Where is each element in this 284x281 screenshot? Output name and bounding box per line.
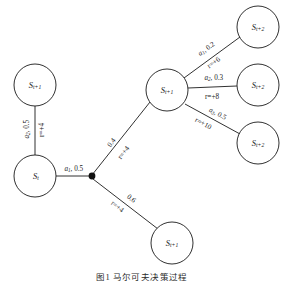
edge-label-prob-0-4: 0.4 xyxy=(106,136,118,148)
figure-root: St+1 St St+1 St+1 St+2 St+2 St+2 xyxy=(0,0,284,281)
edge-decision-dot-to-s_t1_bot xyxy=(93,179,158,229)
edge-label-reward-r-plus4-c: r=+4 xyxy=(109,199,125,214)
edge-label-action-a2-prob-0-3: a2, 0.3 xyxy=(188,74,235,83)
mdp-diagram: St+1 St St+1 St+1 St+2 St+2 St+2 xyxy=(0,0,284,281)
edge-s_t1_mid-to-s_t2_mid xyxy=(188,86,237,88)
decision-dot[interactable] xyxy=(89,173,96,180)
edge-label-reward-r-plus4-b: r=+4 xyxy=(116,144,131,160)
node-label-group: St+1 St St+1 St+1 St+2 St+2 St+2 xyxy=(29,22,265,249)
node-group xyxy=(14,6,279,264)
edge-label-action-a2-prob: a2, 0.5 xyxy=(23,107,32,154)
edge-label-action-a1-prob: a1, 0.5 xyxy=(48,165,95,174)
edge-label-reward-r-plus6: r=+6 xyxy=(206,55,222,70)
edge-decision-dot-to-s_t1_mid xyxy=(92,102,150,175)
edge-label-reward-r-plus8: r=+8 xyxy=(205,93,220,101)
figure-caption: 图1 马尔可夫决策过程 xyxy=(0,272,284,281)
edge-label-reward-r-plus4-a: r=+4 xyxy=(38,123,46,138)
edge-label-reward-r-plus10: r=+10 xyxy=(193,116,213,132)
edge-label-group: a2, 0.5 r=+4 a1, 0.5 0.4 r=+4 0.6 r=+4 a… xyxy=(23,33,239,215)
edge-label-prob-0-6: 0.6 xyxy=(125,193,137,205)
